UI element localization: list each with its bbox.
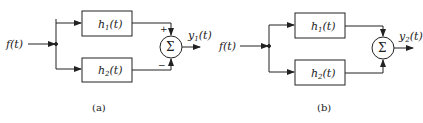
block-h2-label: h2(t) [311,67,336,81]
caption-b: (b) [317,102,331,113]
sigma-symbol: Σ [378,41,386,55]
sign-plus: + [160,24,168,34]
caption-a: (a) [92,102,106,113]
output-label: y2(t) [398,30,423,44]
sigma-symbol: Σ [166,40,174,54]
output-label: y1(t) [187,29,212,43]
block-h1-label: h1(t) [98,18,123,32]
block-h2-label: h2(t) [98,64,123,78]
block-h1-label: h1(t) [311,20,336,34]
input-label: f(t) [5,38,23,51]
input-label: f(t) [218,40,236,53]
block-diagram-figure: f(t) h1(t) h2(t) Σ + − y1(t) (a) f(t) h1… [0,0,423,123]
sign-minus: − [158,60,166,70]
